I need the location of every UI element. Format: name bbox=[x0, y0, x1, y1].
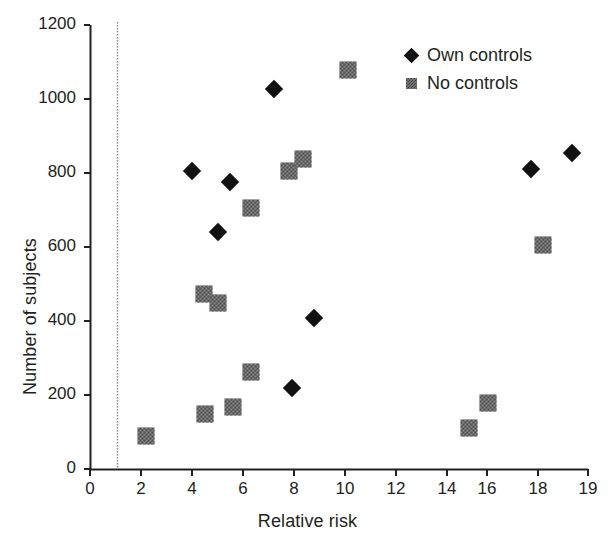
legend-item-no-controls: No controls bbox=[405, 72, 532, 94]
chart-legend: Own controls No controls bbox=[405, 44, 532, 94]
y-tick-label: 800 bbox=[18, 162, 76, 182]
data-point-no-controls bbox=[534, 236, 551, 253]
data-point-no-controls bbox=[294, 150, 311, 167]
square-marker-icon bbox=[405, 78, 418, 89]
x-tick-label: 6 bbox=[238, 479, 247, 499]
x-tick-label: 0 bbox=[85, 479, 94, 499]
diamond-marker-icon bbox=[405, 50, 418, 61]
x-tick-label: 18 bbox=[529, 479, 548, 499]
legend-item-label: Own controls bbox=[427, 46, 532, 64]
data-point-no-controls bbox=[224, 398, 241, 415]
x-tick-label: 14 bbox=[438, 479, 457, 499]
data-point-no-controls bbox=[339, 62, 356, 79]
data-point-no-controls bbox=[460, 419, 477, 436]
data-point-no-controls bbox=[242, 364, 259, 381]
data-point-no-controls bbox=[138, 428, 155, 445]
x-tick-label: 8 bbox=[289, 479, 298, 499]
x-axis-title: Relative risk bbox=[0, 511, 615, 532]
legend-item-own-controls: Own controls bbox=[405, 44, 532, 66]
x-tick-label: 19 bbox=[579, 479, 598, 499]
y-tick-label: 1000 bbox=[18, 88, 76, 108]
scatter-plot-figure: 1200 1000 800 600 400 200 0 0 2 4 6 8 10… bbox=[0, 0, 615, 544]
data-point-no-controls bbox=[209, 295, 226, 312]
y-tick-label: 0 bbox=[18, 458, 76, 478]
y-tick-label: 1200 bbox=[18, 14, 76, 34]
data-point-no-controls bbox=[479, 395, 496, 412]
x-tick-label: 12 bbox=[387, 479, 406, 499]
y-axis-ticks bbox=[84, 25, 90, 469]
x-tick-label: 4 bbox=[187, 479, 196, 499]
x-tick-label: 2 bbox=[136, 479, 145, 499]
x-tick-label: 16 bbox=[478, 479, 497, 499]
legend-item-label: No controls bbox=[427, 74, 518, 92]
data-point-no-controls bbox=[242, 200, 259, 217]
data-point-no-controls bbox=[196, 406, 213, 423]
y-axis-title: Number of subjects bbox=[20, 238, 41, 395]
x-tick-label: 10 bbox=[336, 479, 355, 499]
